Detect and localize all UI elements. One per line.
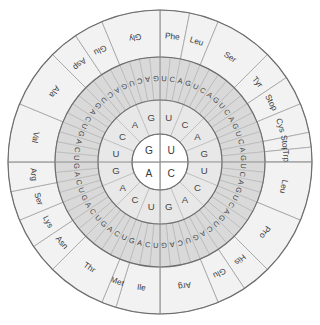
- third-base-label-63: G: [153, 74, 159, 83]
- third-base-label-16: U: [239, 163, 248, 169]
- second-base-label-14: A: [132, 119, 139, 130]
- third-base-label-31: G: [161, 241, 167, 250]
- second-base-label-4: U: [201, 165, 208, 176]
- second-base-label-12: U: [112, 148, 119, 159]
- first-base-label-C: C: [167, 168, 174, 179]
- second-base-label-8: U: [148, 201, 155, 212]
- first-base-label-G: G: [145, 145, 153, 156]
- second-base-label-6: A: [182, 194, 189, 205]
- second-base-label-0: U: [165, 112, 172, 123]
- second-base-label-11: G: [112, 165, 119, 176]
- third-base-label-32: U: [153, 241, 159, 250]
- third-base-label-48: U: [72, 155, 81, 161]
- code-wheel-svg: PheLeuSerTyrStopCysStopTrpLeuProHisGluAr…: [0, 0, 320, 325]
- third-base-label-0: U: [161, 74, 167, 83]
- first-base-label-A: A: [146, 168, 153, 179]
- second-base-label-1: C: [182, 119, 189, 130]
- amino-acid-label-arg-19: Arg: [28, 167, 39, 181]
- third-base-label-47: G: [72, 163, 81, 169]
- second-base-label-3: G: [200, 148, 207, 159]
- genetic-code-wheel: PheLeuSerTyrStopCysStopTrpLeuProHisGluAr…: [0, 0, 320, 325]
- second-base-label-15: G: [147, 112, 154, 123]
- third-base-label-15: G: [239, 155, 248, 161]
- second-base-label-7: G: [165, 201, 172, 212]
- amino-acid-label-trp-7: Trp: [281, 149, 292, 162]
- second-base-label-9: C: [132, 194, 139, 205]
- second-base-label-10: A: [119, 182, 126, 193]
- second-base-label-2: A: [194, 131, 201, 142]
- second-base-label-5: C: [194, 182, 201, 193]
- amino-acid-label-phe-0: Phe: [165, 30, 181, 41]
- second-base-label-13: C: [119, 131, 126, 142]
- first-base-label-U: U: [167, 145, 174, 156]
